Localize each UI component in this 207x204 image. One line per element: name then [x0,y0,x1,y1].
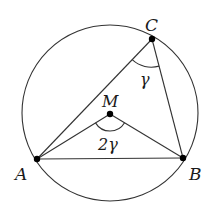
point-a [34,156,40,162]
label-a: A [13,164,27,184]
segment-ac [37,39,152,159]
label-angle-2gamma: 2γ [97,135,118,154]
angle-arc-m [96,123,125,131]
angle-arc-c [132,60,159,68]
label-angle-gamma: γ [140,70,150,89]
label-m: M [101,92,119,111]
label-c: C [145,15,158,35]
segment-ab [37,158,183,159]
point-c [149,36,155,42]
label-b: B [188,164,202,184]
inscribed-angle-diagram: A B C M γ 2γ [0,0,207,204]
segment-bm [110,114,183,158]
point-m [107,111,113,117]
point-b [180,155,186,161]
